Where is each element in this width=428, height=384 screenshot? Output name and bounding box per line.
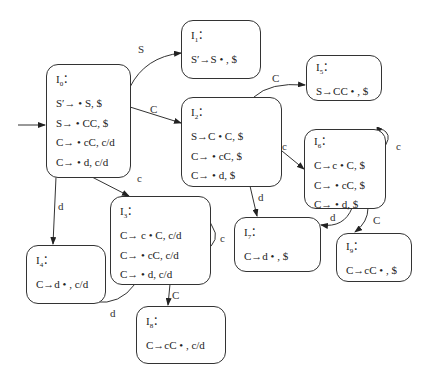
state-I0: I0： S′→ • S, $ S→ • CC, $ C→ • cC, c/d C…	[46, 64, 131, 178]
lr-item: C→ • d, c/d	[120, 265, 210, 285]
edge-label-c-I6-self: c	[396, 140, 401, 152]
state-I6: I6： C→c • C, $ C→ • cC, $ C→ • d, $	[304, 129, 386, 209]
lr-item: S→C • C, $	[191, 127, 281, 147]
state-title: I0：	[56, 71, 130, 92]
state-title: I7：	[244, 224, 320, 245]
state-I4: I4： C→d • , c/d	[26, 245, 106, 304]
lr-item: C→ • cC, c/d	[120, 246, 210, 266]
lr-item: C→c • C, $	[314, 156, 385, 176]
edge-I2-I7	[250, 186, 257, 216]
edge-label-c-I3-self: c	[220, 232, 225, 244]
edge-label-c-I2-I6: c	[282, 140, 287, 152]
lr-item: C→ • cC, $	[314, 176, 385, 196]
edge-I3-I8	[168, 284, 170, 305]
state-I8: I8： C→cC • , c/d	[136, 306, 226, 364]
edge-label-C-I6-I9: C	[373, 214, 380, 226]
state-I2: I2： S→C • C, $ C→ • cC, $ C→ • d, $	[181, 97, 282, 187]
edge-label-d-I2-I7: d	[258, 191, 264, 203]
edge-I2-I5	[254, 85, 305, 98]
state-I1: I1： S′→S • , $	[181, 20, 261, 79]
lr-item: C→ • d, c/d	[56, 153, 130, 173]
lr-item: C→d • , $	[244, 247, 320, 267]
edge-label-c-I0-I3: c	[137, 172, 142, 184]
state-title: I5：	[316, 59, 381, 80]
edge-label-C-I2-I5: C	[272, 72, 279, 84]
lr-item: S→CC • , $	[316, 82, 381, 102]
state-title: I2：	[191, 104, 281, 125]
edge-label-C-I0-I2: C	[150, 103, 157, 115]
lr-item: C→ • d, $	[314, 195, 385, 215]
lr-item: C→d • , c/d	[36, 275, 105, 295]
edge-I0-I3	[92, 177, 129, 196]
state-I3: I3： C→ c • C, c/d C→ • cC, c/d C→ • d, c…	[110, 196, 211, 285]
state-title: I1：	[191, 27, 260, 48]
state-title: I9：	[346, 238, 411, 259]
edge-I0-I1	[130, 53, 181, 87]
lr-item: C→ c • C, c/d	[120, 226, 210, 246]
lr-item: S′→ • S, $	[56, 94, 130, 114]
state-title: I4：	[36, 252, 105, 273]
lr-item: C→ • cC, c/d	[56, 133, 130, 153]
state-I7: I7： C→d • , $	[234, 217, 321, 272]
state-title: I3：	[120, 203, 210, 224]
state-title: I8：	[146, 313, 225, 334]
edge-label-d-I0-I4: d	[58, 200, 64, 212]
edge-I0-I4	[53, 177, 56, 244]
edge-label-S: S	[138, 43, 144, 55]
lr-item: C→cC • , c/d	[146, 336, 225, 356]
lr-item: C→ • d, $	[191, 166, 281, 186]
edge-label-C-I3-I8: C	[172, 289, 179, 301]
lr-item: S′→S • , $	[191, 50, 260, 70]
lr-item: C→ • cC, $	[191, 147, 281, 167]
lr-item: S→ • CC, $	[56, 114, 130, 134]
state-I5: I5： S→CC • , $	[306, 55, 382, 101]
state-title: I6：	[314, 133, 385, 154]
edge-label-d-I3-I4: d	[110, 307, 116, 319]
lr-item: C→cC • , $	[346, 261, 411, 281]
state-I9: I9： C→cC • , $	[336, 233, 412, 282]
